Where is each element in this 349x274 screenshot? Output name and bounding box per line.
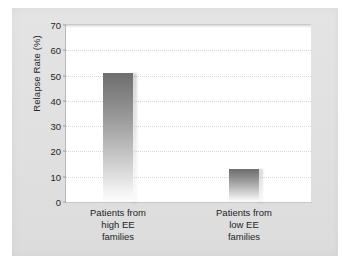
y-axis-tick-label: 40 (50, 95, 61, 106)
category-label-line: Patients from (179, 207, 309, 219)
y-axis-label: Relapse Rate (%) (31, 14, 42, 134)
y-axis-tick-label: 50 (50, 70, 61, 81)
y-axis-tick-mark (63, 202, 66, 203)
y-axis-tick-label: 20 (50, 146, 61, 157)
bar-1 (103, 73, 133, 202)
category-label-line: high EE (53, 219, 183, 231)
y-axis-tick-mark (63, 126, 66, 127)
y-axis-tick-mark (63, 50, 66, 51)
category-label-2: Patients fromlow EEfamilies (179, 207, 309, 244)
y-axis-tick-mark (63, 25, 66, 26)
y-axis-tick-label: 30 (50, 121, 61, 132)
category-label-line: families (53, 231, 183, 243)
y-axis-tick-label: 10 (50, 171, 61, 182)
category-label-line: Patients from (53, 207, 183, 219)
category-label-1: Patients fromhigh EEfamilies (53, 207, 183, 244)
y-axis-tick-label: 70 (50, 20, 61, 31)
y-axis-tick-label: 0 (56, 197, 61, 208)
bar-2 (229, 169, 259, 202)
y-axis-tick-mark (63, 75, 66, 76)
figure-panel: Relapse Rate (%) 010203040506070 Patient… (12, 8, 338, 256)
y-axis-tick-mark (63, 151, 66, 152)
category-label-line: low EE (179, 219, 309, 231)
gridline (66, 50, 311, 51)
plot-area: 010203040506070 (66, 25, 311, 202)
x-axis-line (66, 202, 312, 203)
y-axis-tick-mark (63, 100, 66, 101)
y-axis-tick-mark (63, 176, 66, 177)
category-label-line: families (179, 231, 309, 243)
y-axis-tick-label: 60 (50, 45, 61, 56)
plot-top-shading (66, 25, 311, 28)
